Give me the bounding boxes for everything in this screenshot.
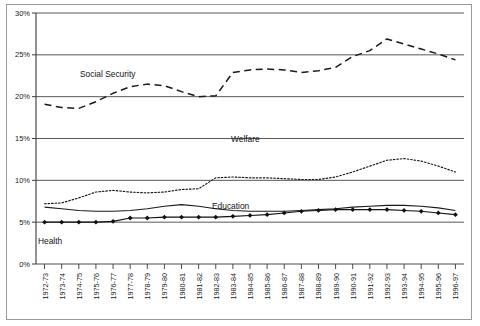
x-axis-tick-label: 1980-81	[178, 273, 187, 299]
series-marker	[248, 213, 253, 218]
x-axis-tick-label: 1973-74	[58, 273, 67, 299]
series-marker	[402, 208, 407, 213]
series-marker	[316, 208, 321, 213]
x-axis-tick-label: 1986-87	[280, 273, 289, 299]
series-marker	[111, 219, 116, 224]
series-marker	[265, 212, 270, 217]
x-axis-tick-label: 1988-89	[314, 273, 323, 299]
series-marker	[196, 215, 201, 220]
series-marker	[367, 207, 372, 212]
series-annotation-health: Health	[38, 236, 63, 246]
series-marker	[230, 214, 235, 219]
series-annotation-education: Education	[212, 201, 250, 211]
y-axis-tick-label: 0%	[19, 260, 30, 269]
x-axis-tick-label: 1977-78	[126, 273, 135, 299]
x-axis: 1972-731973-741974-751975-761976-771977-…	[41, 264, 461, 299]
x-axis-tick-label: 1974-75	[75, 273, 84, 299]
series-marker	[385, 207, 390, 212]
x-axis-tick-label: 1990-91	[349, 273, 358, 299]
series-marker	[179, 215, 184, 220]
series-annotation-welfare: Welfare	[231, 134, 260, 144]
series-marker	[59, 220, 64, 225]
y-axis-tick-label: 5%	[19, 218, 30, 227]
series-marker	[453, 212, 458, 217]
y-axis-tick-label: 10%	[15, 176, 30, 185]
series-line	[45, 159, 456, 204]
series-marker	[76, 220, 81, 225]
series-annotation-social-security: Social Security	[80, 69, 136, 79]
x-axis-tick-label: 1994-95	[417, 273, 426, 299]
series-marker	[299, 209, 304, 214]
series-marker	[94, 220, 99, 225]
x-axis-tick-label: 1995-96	[434, 273, 443, 299]
x-axis-tick-label: 1972-73	[41, 273, 50, 299]
y-axis-tick-label: 15%	[15, 134, 30, 143]
series-marker	[419, 209, 424, 214]
y-axis-tick-label: 30%	[15, 9, 30, 18]
x-axis-tick-label: 1989-90	[332, 273, 341, 299]
x-axis-tick-label: 1992-93	[383, 273, 392, 299]
x-axis-tick-label: 1975-76	[92, 273, 101, 299]
series-marker	[333, 207, 338, 212]
series-marker	[42, 220, 47, 225]
chart-figure: 0%5%10%15%20%25%30%1972-731973-741974-75…	[0, 0, 480, 326]
x-axis-tick-label: 1984-85	[246, 273, 255, 299]
series-marker	[128, 216, 133, 221]
series-welfare	[45, 159, 456, 204]
x-axis-tick-label: 1979-80	[160, 273, 169, 299]
line-chart: 0%5%10%15%20%25%30%1972-731973-741974-75…	[0, 0, 480, 326]
x-axis-tick-label: 1987-88	[297, 273, 306, 299]
x-axis-tick-label: 1981-82	[195, 273, 204, 299]
x-axis-tick-label: 1983-84	[229, 273, 238, 299]
x-axis-tick-label: 1985-86	[263, 273, 272, 299]
series-marker	[162, 215, 167, 220]
x-axis-tick-label: 1982-83	[212, 273, 221, 299]
y-axis-tick-label: 20%	[15, 92, 30, 101]
series-marker	[436, 211, 441, 216]
x-axis-tick-label: 1978-79	[143, 273, 152, 299]
x-axis-tick-label: 1976-77	[109, 273, 118, 299]
x-axis-tick-label: 1991-92	[366, 273, 375, 299]
x-axis-tick-label: 1993-94	[400, 273, 409, 299]
series-marker	[213, 215, 218, 220]
x-axis-tick-label: 1996-97	[451, 273, 460, 299]
y-axis-tick-label: 25%	[15, 50, 30, 59]
series-marker	[350, 207, 355, 212]
series-marker	[145, 216, 150, 221]
